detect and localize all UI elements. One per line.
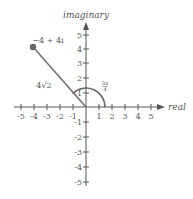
x-axis — [14, 104, 165, 110]
x-tick-label: -5 — [17, 112, 25, 121]
x-tick-label: 1 — [96, 112, 101, 121]
angle-denominator: 4 — [103, 86, 106, 92]
y-tick-label: -5 — [74, 178, 82, 187]
x-axis-label: real — [168, 102, 186, 112]
x-tick-label: 4 — [135, 112, 140, 121]
x-tick-label: 5 — [148, 112, 153, 121]
y-tick-label: 2 — [77, 74, 82, 83]
y-axis-label: imaginary — [63, 10, 110, 20]
x-tick-label: -3 — [43, 112, 51, 121]
y-tick-labels: 5 4 3 2 1 -1 -2 -3 -4 -5 — [74, 31, 82, 187]
x-tick-label: -2 — [56, 112, 64, 121]
y-tick-label: -3 — [74, 148, 82, 157]
complex-plane-diagram: -5 -4 -3 -2 -1 1 2 3 4 5 5 4 3 2 1 -1 -2… — [0, 0, 193, 199]
y-tick-label: -4 — [74, 163, 82, 172]
x-tick-labels: -5 -4 -3 -2 -1 1 2 3 4 5 — [17, 112, 153, 121]
point-label: −4 + 4i — [32, 36, 64, 45]
y-tick-label: 5 — [77, 31, 82, 40]
modulus-label: 4√2 — [36, 81, 51, 90]
x-tick-label: 3 — [122, 112, 127, 121]
y-tick-label: 3 — [77, 59, 82, 68]
y-tick-label: 4 — [77, 45, 82, 54]
x-tick-label: -4 — [30, 112, 38, 121]
angle-label: 3π 4 — [102, 80, 109, 92]
x-tick-label: 2 — [109, 112, 114, 121]
y-tick-label: -1 — [74, 118, 82, 127]
y-tick-label: -2 — [74, 133, 82, 142]
